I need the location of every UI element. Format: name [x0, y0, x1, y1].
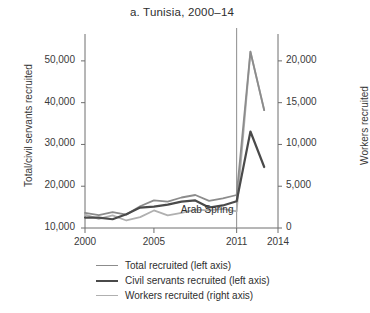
- x-axis-tick-label: 2000: [55, 236, 115, 247]
- y-axis-left-tick-label: 20,000: [19, 179, 75, 190]
- legend-label: Civil servants recruited (left axis): [125, 275, 269, 286]
- legend-item: Workers recruited (right axis): [96, 288, 326, 303]
- legend-swatch: [96, 265, 118, 266]
- y-axis-right-tick-label: 10,000: [286, 137, 342, 148]
- y-axis-left-tick-label: 50,000: [19, 54, 75, 65]
- legend-swatch: [96, 280, 118, 282]
- series-line: [85, 52, 264, 215]
- chart-legend: Total recruited (left axis)Civil servant…: [96, 258, 326, 303]
- y-axis-right-tick-label: 15,000: [286, 96, 342, 107]
- y-axis-right-tick-label: 5,000: [286, 179, 342, 190]
- legend-label: Total recruited (left axis): [125, 260, 231, 271]
- legend-line-icon: [96, 265, 118, 266]
- y-axis-right-tick-label: 20,000: [286, 54, 342, 65]
- y-axis-left-tick-label: 40,000: [19, 96, 75, 107]
- legend-label: Workers recruited (right axis): [125, 290, 253, 301]
- legend-item: Civil servants recruited (left axis): [96, 273, 326, 288]
- y-axis-left-tick-label: 30,000: [19, 137, 75, 148]
- legend-line-icon: [96, 280, 118, 282]
- arab-spring-annotation: Arab Spring: [181, 204, 234, 215]
- legend-swatch: [96, 295, 118, 296]
- y-axis-right-tick-label: 0: [286, 221, 342, 232]
- legend-item: Total recruited (left axis): [96, 258, 326, 273]
- x-axis-tick-label: 2014: [248, 236, 308, 247]
- x-axis-tick-label: 2005: [124, 236, 184, 247]
- legend-line-icon: [96, 295, 118, 296]
- y-axis-left-tick-label: 10,000: [19, 221, 75, 232]
